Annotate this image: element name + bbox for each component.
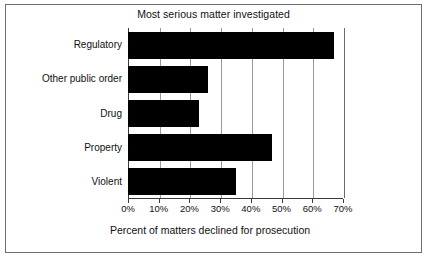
chart-figure: Most serious matter investigated Regulat… xyxy=(0,0,427,258)
x-axis-label: Percent of matters declined for prosecut… xyxy=(60,224,360,236)
bar-other-public-order xyxy=(128,66,208,93)
category-label: Violent xyxy=(4,176,122,188)
category-label: Other public order xyxy=(4,73,122,85)
category-label: Drug xyxy=(4,108,122,120)
bar-row xyxy=(128,168,343,195)
bar-row xyxy=(128,66,343,93)
gridline xyxy=(344,28,345,198)
bar-property xyxy=(128,134,272,161)
category-label: Property xyxy=(4,142,122,154)
category-label: Regulatory xyxy=(4,39,122,51)
bar-regulatory xyxy=(128,32,334,59)
bar-row xyxy=(128,100,343,127)
bar-drug xyxy=(128,100,199,127)
x-tick-label: 70% xyxy=(323,203,363,214)
bar-violent xyxy=(128,168,236,195)
chart-title: Most serious matter investigated xyxy=(0,8,427,20)
bar-row xyxy=(128,134,343,161)
bar-row xyxy=(128,32,343,59)
